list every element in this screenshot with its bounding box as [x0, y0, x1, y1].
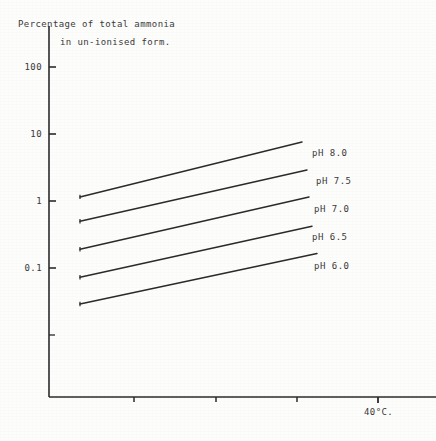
plot-area: [0, 0, 436, 441]
ammonia-chart-figure: Percentage of total ammonia in un-ionise…: [0, 0, 436, 441]
y-axis-ticks: [49, 67, 56, 335]
series-line-ph-7.5: [80, 170, 307, 221]
series-line-ph-6.0: [80, 253, 317, 304]
series-lines-group: [80, 142, 317, 306]
series-line-ph-7.0: [80, 197, 309, 249]
x-axis-ticks: [134, 397, 378, 403]
series-line-ph-6.5: [80, 226, 312, 277]
series-line-ph-8.0: [80, 142, 302, 197]
